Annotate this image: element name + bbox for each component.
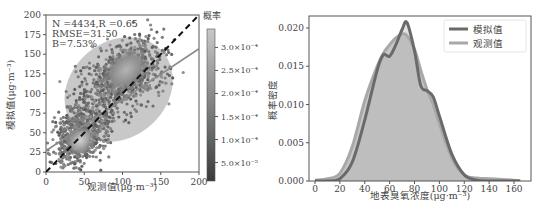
colorbar-tick-label: 1.5×10⁻⁴ [221, 113, 258, 122]
density-y-label: 概率密度 [267, 80, 278, 120]
y-tick-label: 200 [24, 10, 41, 20]
y-tick-label: 50 [30, 128, 42, 138]
legend-observed-label: 观测值 [473, 38, 503, 49]
y-tick-label: 150 [24, 49, 41, 59]
density-chart: 0.0000.0050.0100.0150.020 02040608010012… [267, 16, 531, 201]
colorbar-label: 概率 [203, 10, 221, 21]
y-tick-label: 0.015 [278, 61, 304, 71]
colorbar-ticks: 5.0×10⁻⁵1.0×10⁻⁴1.5×10⁻⁴2.0×10⁻⁴2.5×10⁻⁴… [215, 43, 258, 167]
density-y-axis: 0.0000.0050.0100.0150.020 [278, 23, 309, 186]
y-tick-label: 75 [30, 108, 42, 118]
y-tick-label: 125 [24, 69, 41, 79]
y-tick-label: 0.020 [278, 23, 304, 33]
colorbar-tick-label: 5.0×10⁻⁵ [221, 159, 258, 168]
y-tick-label: 0.000 [278, 176, 304, 186]
stats-bias: B=7.53% [52, 38, 97, 49]
y-tick-label: 175 [24, 30, 41, 40]
x-tick-label: 0 [43, 177, 49, 187]
y-tick-label: 100 [24, 89, 41, 99]
colorbar-tick-label: 2.5×10⁻⁴ [221, 66, 258, 75]
legend: 模拟值 观测值 [444, 20, 526, 52]
x-tick-label: 20 [334, 184, 346, 194]
colorbar [207, 29, 215, 181]
scatter-x-label: 观测值(μg·m⁻³) [87, 181, 158, 192]
x-tick-label: 160 [505, 184, 522, 194]
y-tick-label: 0.005 [278, 138, 304, 148]
colorbar-tick-label: 2.0×10⁻⁴ [221, 89, 258, 98]
colorbar-tick-label: 3.0×10⁻⁴ [221, 43, 258, 52]
y-tick-label: 0.010 [278, 100, 304, 110]
density-x-label: 地表臭氧浓度(μg·m⁻³) [370, 190, 471, 201]
scatter-chart: 0255075100125150175200 050100150200 N =4… [0, 0, 543, 220]
x-tick-label: 0 [312, 184, 318, 194]
scatter-y-label: 模拟值(μg·m⁻³) [5, 60, 16, 131]
y-tick-label: 25 [30, 147, 42, 157]
x-tick-label: 200 [190, 177, 207, 187]
x-tick-label: 140 [481, 184, 498, 194]
scatter-y-axis: 0255075100125150175200 [24, 10, 46, 177]
legend-simulated-label: 模拟值 [473, 24, 503, 35]
y-tick-label: 0 [35, 167, 41, 177]
colorbar-tick-label: 1.0×10⁻⁴ [221, 136, 258, 145]
